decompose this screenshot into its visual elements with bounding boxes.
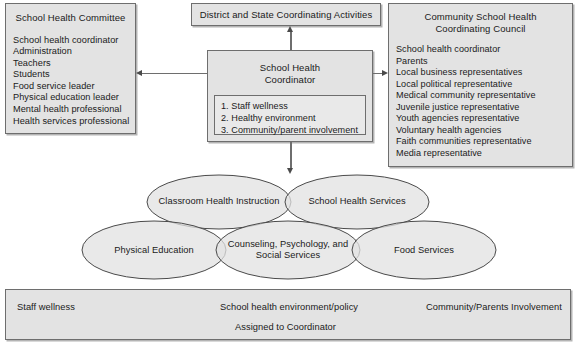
list-item: Health services professional: [13, 116, 135, 128]
list-item: Voluntary health agencies: [396, 125, 572, 137]
list-item: Media representative: [396, 148, 572, 160]
connector-coordinator-to-council: [373, 73, 382, 74]
district-state-title: District and State Coordinating Activiti…: [200, 9, 373, 21]
school-health-committee-members: School health coordinator Administration…: [13, 35, 135, 128]
coordinator-title-line-2: Coordinator: [208, 74, 372, 86]
bottom-label-community-parents-involvement: Community/Parents Involvement: [426, 302, 562, 312]
arrow-left-icon: [136, 70, 142, 76]
list-item: Juvenile justice representative: [396, 102, 572, 114]
components-venn-diagram: [0, 168, 576, 288]
list-item: Youth agencies representative: [396, 113, 572, 125]
connector-coordinator-to-components: [290, 142, 292, 168]
list-item: Administration: [13, 46, 135, 58]
list-item: 1. Staff wellness: [221, 100, 365, 112]
school-health-committee-title: School Health Committee: [6, 12, 135, 24]
school-health-coordinator-box: School Health Coordinator 1. Staff welln…: [207, 50, 373, 142]
council-members: School health coordinator Parents Local …: [396, 44, 572, 159]
arrow-right-icon: [382, 70, 388, 76]
list-item: Local business representatives: [396, 67, 572, 79]
ellipse-classroom-health-instruction: [147, 175, 291, 229]
school-health-coordinator-title: School Health Coordinator: [208, 62, 372, 85]
list-item: School health coordinator: [13, 35, 135, 47]
district-state-coordinating-activities-box: District and State Coordinating Activiti…: [191, 3, 381, 26]
coordinator-title-line-1: School Health: [208, 62, 372, 74]
bottom-label-assigned-to-coordinator: Assigned to Coordinator: [235, 322, 336, 332]
list-item: Physical education leader: [13, 92, 135, 104]
school-health-committee-box: School Health Committee School health co…: [5, 3, 136, 134]
list-item: Food service leader: [13, 81, 135, 93]
list-item: Medical community representative: [396, 90, 572, 102]
ellipse-food-services: [352, 221, 496, 279]
list-item: Faith communities representative: [396, 136, 572, 148]
ellipse-counseling-psychology-social-services: [216, 221, 360, 279]
connector-coordinator-to-district: [290, 32, 292, 50]
list-item: Local political representative: [396, 79, 572, 91]
list-item: Mental health professional: [13, 104, 135, 116]
coordinator-assignments-bar: Staff wellness School health environment…: [5, 289, 571, 340]
ellipse-physical-education: [82, 221, 226, 279]
coordinator-tasks-box: 1. Staff wellness 2. Healthy environment…: [214, 95, 366, 135]
coordinator-tasks-list: 1. Staff wellness 2. Healthy environment…: [221, 100, 365, 136]
list-item: Parents: [396, 56, 572, 68]
list-item: Teachers: [13, 58, 135, 70]
list-item: 2. Healthy environment: [221, 112, 365, 124]
list-item: Students: [13, 69, 135, 81]
arrow-up-icon: [287, 26, 293, 32]
connector-coordinator-to-committee: [142, 73, 207, 74]
list-item: School health coordinator: [396, 44, 572, 56]
ellipse-school-health-services: [285, 175, 429, 229]
bottom-label-staff-wellness: Staff wellness: [17, 302, 75, 312]
list-item: 3. Community/parent involvement: [221, 124, 365, 136]
diagram-canvas: School Health Committee School health co…: [0, 0, 576, 347]
community-school-health-coordinating-council-box: Community School Health Coordinating Cou…: [388, 3, 573, 167]
council-title: Community School Health Coordinating Cou…: [389, 11, 572, 34]
bottom-label-school-health-environment-policy: School health environment/policy: [220, 302, 358, 312]
